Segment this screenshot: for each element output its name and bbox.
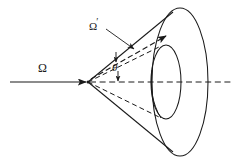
scattering-apex-point xyxy=(87,81,90,84)
polar-angle-label: θ xyxy=(112,62,117,73)
omega-prime-leader-line xyxy=(106,29,134,49)
scattering-diagram-figure: Ω Ω′ θ xyxy=(0,0,240,161)
scattered-direction-label: Ω′ xyxy=(89,17,98,32)
incident-direction-label: Ω xyxy=(38,62,47,74)
diagram-canvas xyxy=(0,0,240,161)
prime-glyph: ′ xyxy=(96,16,98,27)
